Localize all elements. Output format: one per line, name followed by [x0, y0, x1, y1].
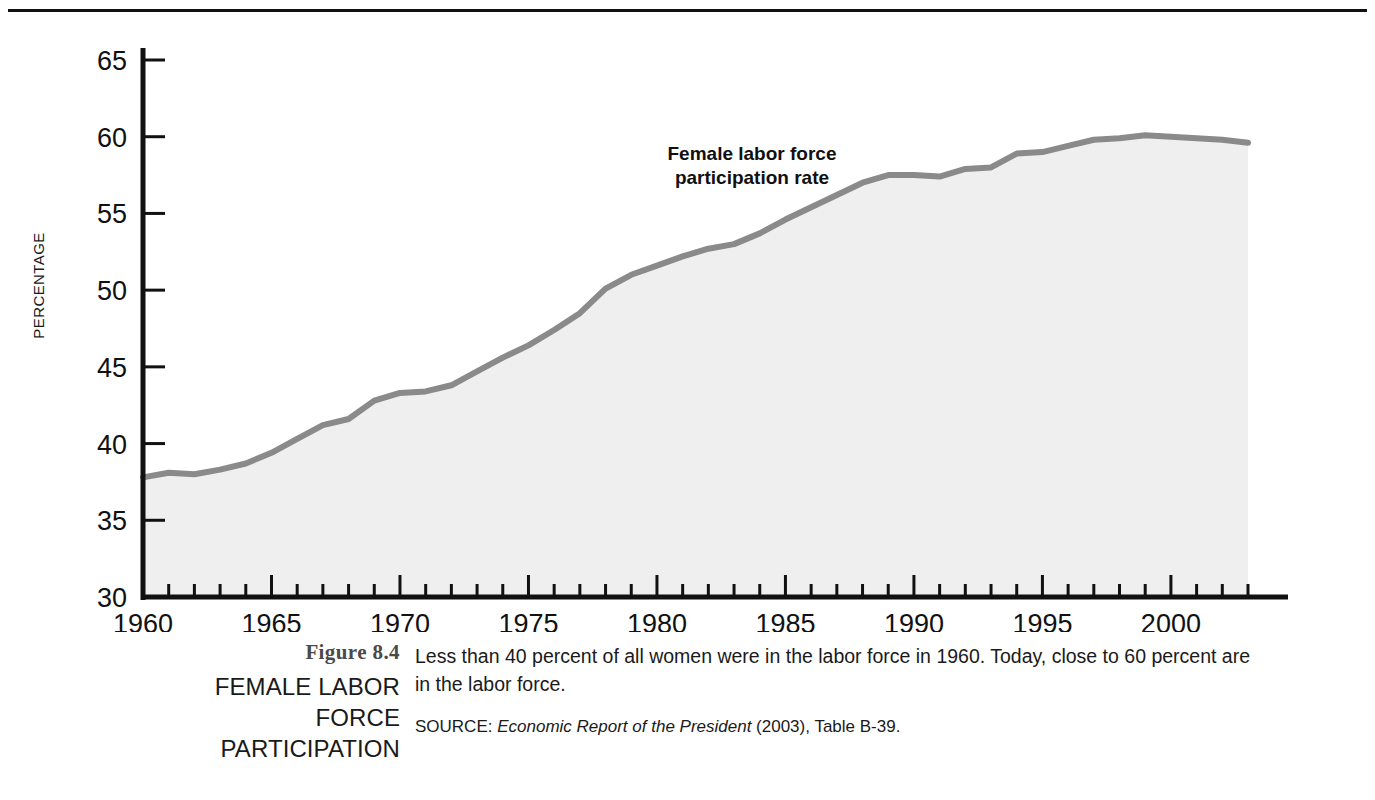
source-prefix: SOURCE:: [415, 717, 497, 736]
figure-number: Figure 8.4: [150, 640, 400, 665]
x-tick-label: 1985: [755, 609, 815, 632]
y-tick-label: 65: [97, 46, 127, 76]
figure-title-line2: PARTICIPATION: [150, 734, 400, 765]
series-area-fill: [143, 135, 1248, 597]
x-tick-label: 2000: [1141, 609, 1201, 632]
y-tick-label: 40: [97, 430, 127, 460]
figure-title: FEMALE LABOR FORCE PARTICIPATION: [150, 672, 400, 764]
x-tick-label: 1995: [1012, 609, 1072, 632]
figure-caption-text: Less than 40 percent of all women were i…: [415, 642, 1255, 699]
chart-canvas: 3035404550556065 19601965197019751980198…: [0, 22, 1375, 632]
figure-title-line1: FEMALE LABOR FORCE: [150, 672, 400, 733]
figure-source-line: SOURCE: Economic Report of the President…: [415, 715, 1255, 739]
y-tick-label: 60: [97, 123, 127, 153]
series-annotation-label: Female labor force participation rate: [612, 142, 892, 190]
source-publication-title: Economic Report of the President: [497, 717, 751, 736]
x-tick-label: 1970: [370, 609, 430, 632]
y-tick-label: 35: [97, 506, 127, 536]
source-suffix: (2003), Table B-39.: [751, 717, 900, 736]
x-tick-label: 1975: [498, 609, 558, 632]
series-annotation-line1: Female labor force: [612, 142, 892, 166]
x-tick-label: 1965: [241, 609, 301, 632]
x-tick-label: 1960: [113, 609, 173, 632]
x-tick-label: 1980: [627, 609, 687, 632]
y-tick-label: 50: [97, 276, 127, 306]
x-tick-label: 1990: [884, 609, 944, 632]
area-fill-group: [143, 135, 1248, 597]
page-top-rule: [8, 9, 1367, 12]
series-annotation-line2: participation rate: [612, 166, 892, 190]
figure-caption-region: Figure 8.4 FEMALE LABOR FORCE PARTICIPAT…: [0, 640, 1375, 790]
y-tick-label: 45: [97, 353, 127, 383]
chart-figure: PERCENTAGE 3035404550556065 196019651970…: [0, 22, 1375, 632]
y-tick-label: 55: [97, 199, 127, 229]
figure-caption-right: Less than 40 percent of all women were i…: [415, 642, 1255, 738]
figure-caption-left: Figure 8.4 FEMALE LABOR FORCE PARTICIPAT…: [150, 640, 400, 764]
